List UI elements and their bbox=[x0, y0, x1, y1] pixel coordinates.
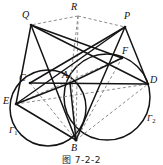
segment-BD bbox=[76, 84, 148, 140]
circle-label-gamma-2: Γ2 bbox=[147, 114, 155, 125]
segment-RP bbox=[78, 16, 125, 27]
segment-PC bbox=[30, 27, 125, 83]
segment-BF bbox=[76, 58, 122, 140]
segment-QF bbox=[31, 25, 122, 58]
point-label-F: F bbox=[122, 46, 128, 56]
point-Q bbox=[30, 24, 33, 27]
segment-CD bbox=[30, 83, 148, 84]
point-A bbox=[68, 81, 71, 84]
point-label-P: P bbox=[124, 11, 130, 21]
point-label-D: D bbox=[150, 75, 157, 85]
segment-ED bbox=[16, 84, 148, 104]
circle-label-gamma-1-subscript: 1 bbox=[14, 129, 17, 136]
point-label-E: E bbox=[3, 96, 9, 106]
segment-PD bbox=[125, 27, 148, 84]
point-F bbox=[121, 57, 124, 60]
point-label-A: A bbox=[62, 70, 68, 80]
segment-EA bbox=[16, 83, 70, 104]
circle-label-gamma-2-subscript: 2 bbox=[152, 117, 155, 124]
point-C bbox=[29, 82, 32, 85]
segment-RQ bbox=[31, 16, 78, 25]
point-label-C: C bbox=[19, 73, 26, 83]
solid-line-group bbox=[16, 25, 148, 140]
point-label-Q: Q bbox=[22, 10, 29, 20]
segment-AF bbox=[70, 58, 122, 83]
segment-QE bbox=[16, 25, 31, 104]
figure-container: Q R P F C A D E B Γ1 Γ2 图 7-2-2 bbox=[0, 0, 163, 165]
point-label-B: B bbox=[71, 143, 77, 153]
circle-label-gamma-1: Γ1 bbox=[9, 126, 17, 137]
figure-caption: 图 7-2-2 bbox=[0, 153, 163, 165]
point-D bbox=[147, 83, 150, 86]
segment-EB bbox=[16, 104, 76, 140]
segment-BC bbox=[30, 83, 76, 140]
point-E bbox=[15, 103, 18, 106]
segment-QD bbox=[31, 25, 148, 84]
point-label-R: R bbox=[71, 2, 77, 12]
point-P bbox=[124, 26, 127, 29]
